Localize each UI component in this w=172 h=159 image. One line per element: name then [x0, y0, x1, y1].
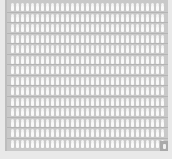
row-divider: [7, 22, 168, 23]
person-icon-body: [41, 68, 44, 74]
person-icon-body: [11, 47, 14, 53]
person-icon-body: [56, 110, 59, 116]
person-icon-body: [76, 142, 79, 148]
person-icon-body: [76, 110, 79, 116]
person-icon-body: [156, 79, 159, 85]
person-icon-body: [91, 5, 94, 11]
person-icon-body: [56, 26, 59, 32]
person-icon-body: [161, 68, 164, 74]
person-icon-body: [61, 68, 64, 74]
person-icon-body: [106, 5, 109, 11]
person-icon-body: [76, 5, 79, 11]
person-icon-body: [126, 142, 129, 148]
person-icon-body: [41, 79, 44, 85]
person-icon-body: [126, 110, 129, 116]
person-icon-body: [161, 110, 164, 116]
person-icon-body: [96, 26, 99, 32]
person-icon-body: [41, 16, 44, 22]
person-icon-body: [131, 47, 134, 53]
person-icon-body: [41, 131, 44, 137]
person-icon-body: [86, 89, 89, 95]
highlight-cell[interactable]: [160, 141, 168, 151]
person-icon-body: [71, 100, 74, 106]
person-icon-body: [56, 131, 59, 137]
person-icon-body: [126, 37, 129, 43]
person-icon-body: [131, 16, 134, 22]
person-icon-body: [121, 79, 124, 85]
person-icon-body: [66, 5, 69, 11]
person-icon-body: [36, 100, 39, 106]
person-icon-body: [146, 26, 149, 32]
row-divider: [7, 54, 168, 55]
person-icon-body: [81, 142, 84, 148]
person-icon-body: [61, 121, 64, 127]
person-icon-body: [66, 37, 69, 43]
person-icon-body: [36, 110, 39, 116]
person-icon-body: [31, 89, 34, 95]
person-icon-body: [41, 58, 44, 64]
person-icon-body: [131, 58, 134, 64]
person-icon-body: [136, 110, 139, 116]
person-icon-body: [56, 37, 59, 43]
person-icon-body: [86, 142, 89, 148]
person-icon-body: [146, 58, 149, 64]
person-icon-body: [146, 16, 149, 22]
person-icon-body: [31, 16, 34, 22]
icon-grid-panel: [5, 0, 168, 151]
person-icon-body: [61, 142, 64, 148]
person-icon-body: [26, 47, 29, 53]
person-icon-body: [71, 89, 74, 95]
person-icon-body: [66, 47, 69, 53]
person-icon-body: [16, 47, 19, 53]
person-icon-body: [146, 110, 149, 116]
person-icon-body: [101, 110, 104, 116]
person-icon-body: [76, 79, 79, 85]
person-icon-body: [136, 79, 139, 85]
person-icon-body: [141, 79, 144, 85]
person-icon-body: [161, 37, 164, 43]
person-icon-body: [81, 5, 84, 11]
person-icon-body: [101, 37, 104, 43]
person-icon-body: [156, 37, 159, 43]
person-icon-body: [66, 26, 69, 32]
person-icon-body: [71, 37, 74, 43]
person-icon-body: [16, 5, 19, 11]
person-icon-body: [66, 142, 69, 148]
person-icon-body: [101, 142, 104, 148]
person-icon-body: [31, 58, 34, 64]
person-icon-body: [136, 58, 139, 64]
person-icon-body: [26, 89, 29, 95]
person-icon-body: [51, 47, 54, 53]
person-icon-body: [96, 89, 99, 95]
person-icon-body: [56, 47, 59, 53]
person-icon-body: [86, 131, 89, 137]
person-icon-body: [86, 110, 89, 116]
person-icon-body: [26, 37, 29, 43]
person-icon-body: [161, 131, 164, 137]
person-icon-body: [81, 121, 84, 127]
person-icon-body: [46, 121, 49, 127]
person-icon-body: [91, 142, 94, 148]
person-icon-body: [51, 37, 54, 43]
person-icon-body: [86, 68, 89, 74]
person-icon-body: [36, 68, 39, 74]
person-icon-body: [71, 131, 74, 137]
person-icon-body: [61, 26, 64, 32]
person-icon-body: [131, 26, 134, 32]
person-icon-body: [16, 79, 19, 85]
person-icon-body: [121, 26, 124, 32]
person-icon-body: [161, 100, 164, 106]
person-icon-body: [156, 68, 159, 74]
person-icon-body: [96, 131, 99, 137]
person-icon-body: [61, 89, 64, 95]
person-icon-body: [116, 121, 119, 127]
person-icon-body: [66, 89, 69, 95]
person-icon-body: [56, 100, 59, 106]
person-icon-body: [51, 79, 54, 85]
person-icon-body: [26, 100, 29, 106]
person-icon-body: [46, 68, 49, 74]
person-icon-body: [46, 142, 49, 148]
person-icon-body: [41, 110, 44, 116]
person-icon-body: [51, 131, 54, 137]
person-icon-body: [156, 89, 159, 95]
